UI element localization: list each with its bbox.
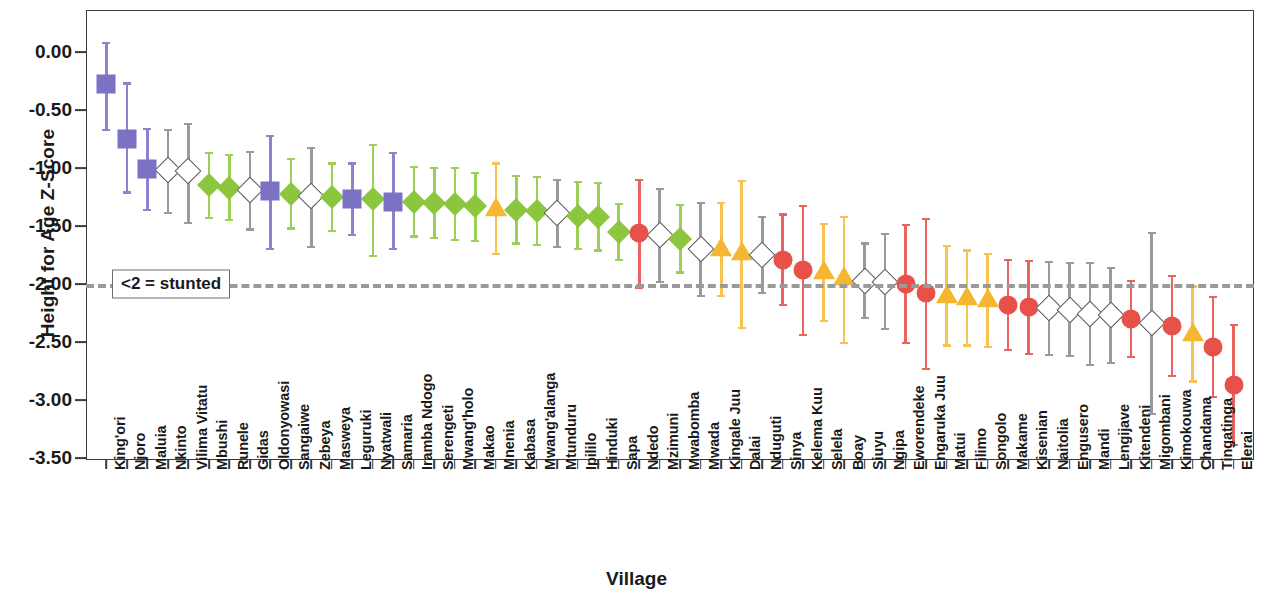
- error-bar-cap-lower: [287, 227, 295, 229]
- purple-square-marker[interactable]: [261, 182, 280, 201]
- x-axis-tick-mark: [925, 460, 927, 469]
- x-axis-tick-mark: [106, 460, 108, 469]
- amber-triangle-marker[interactable]: [731, 241, 753, 260]
- error-bar-cap-upper: [984, 253, 992, 255]
- x-axis-tick-label: Engaruka Juu: [932, 375, 948, 470]
- error-bar-cap-lower: [246, 228, 254, 230]
- red-circle-marker[interactable]: [630, 223, 649, 242]
- error-bar-cap-upper: [553, 179, 561, 181]
- red-circle-marker[interactable]: [1224, 375, 1243, 394]
- red-circle-marker[interactable]: [1163, 316, 1182, 335]
- x-axis-tick-mark: [372, 460, 374, 469]
- x-axis-tick-mark: [1151, 460, 1153, 469]
- x-axis-tick-mark: [167, 460, 169, 469]
- green-diamond-marker[interactable]: [607, 220, 631, 244]
- error-bar-cap-upper: [1107, 267, 1115, 269]
- x-axis-tick-label: Eworendeke: [911, 386, 927, 470]
- open-diamond-marker[interactable]: [544, 200, 571, 227]
- error-bar-cap-upper: [451, 167, 459, 169]
- error-bar-cap-upper: [287, 158, 295, 160]
- error-bar-cap-lower: [328, 230, 336, 232]
- error-bar-cap-upper: [410, 166, 418, 168]
- error-bar-cap-lower: [922, 368, 930, 370]
- x-axis-tick-mark: [1212, 460, 1214, 469]
- data-series-layer: [0, 0, 1273, 601]
- x-axis-tick-mark: [208, 460, 210, 469]
- x-axis-tick-mark: [987, 460, 989, 469]
- error-bar-cap-lower: [820, 320, 828, 322]
- red-circle-marker[interactable]: [1204, 337, 1223, 356]
- error-bar-cap-upper: [717, 202, 725, 204]
- x-axis-tick-mark: [966, 460, 968, 469]
- x-axis-tick-mark: [1007, 460, 1009, 469]
- x-axis-tick-mark: [290, 460, 292, 469]
- open-diamond-marker[interactable]: [1097, 302, 1124, 329]
- stunted-threshold-label: <2 = stunted: [112, 270, 230, 299]
- amber-triangle-marker[interactable]: [710, 237, 732, 256]
- green-diamond-marker[interactable]: [463, 194, 487, 218]
- error-bar-cap-upper: [1025, 260, 1033, 262]
- error-bar-cap-upper: [471, 172, 479, 174]
- error-bar-cap-upper: [1127, 280, 1135, 282]
- purple-square-marker[interactable]: [117, 130, 136, 149]
- green-diamond-marker[interactable]: [197, 173, 221, 197]
- open-diamond-marker[interactable]: [1138, 310, 1165, 337]
- amber-triangle-marker[interactable]: [956, 286, 978, 305]
- error-bar-cap-lower: [1168, 375, 1176, 377]
- x-axis-tick-mark: [823, 460, 825, 469]
- green-diamond-marker[interactable]: [320, 185, 344, 209]
- open-diamond-marker[interactable]: [1056, 296, 1083, 323]
- open-diamond-marker[interactable]: [175, 158, 202, 185]
- height-for-age-chart: Height for Age Z-Score 0.00-0.50-1.00-1.…: [0, 0, 1273, 601]
- amber-triangle-marker[interactable]: [833, 266, 855, 285]
- x-axis-tick-mark: [1192, 460, 1194, 469]
- red-circle-marker[interactable]: [1122, 309, 1141, 328]
- open-diamond-marker[interactable]: [236, 177, 263, 204]
- open-diamond-marker[interactable]: [646, 222, 673, 249]
- error-bar-cap-lower: [1066, 355, 1074, 357]
- x-axis-tick-label: Kingale Juu: [727, 389, 743, 470]
- x-axis-tick-mark: [536, 460, 538, 469]
- open-diamond-marker[interactable]: [872, 268, 899, 295]
- error-bar-cap-lower: [1004, 349, 1012, 351]
- error-bar-cap-upper: [328, 162, 336, 164]
- error-bar-cap-lower: [1127, 356, 1135, 358]
- error-bar-cap-upper: [656, 188, 664, 190]
- x-axis-tick-mark: [597, 460, 599, 469]
- x-axis-tick-mark: [802, 460, 804, 469]
- red-circle-marker[interactable]: [773, 250, 792, 269]
- error-bar-cap-lower: [184, 222, 192, 224]
- error-bar-cap-lower: [143, 209, 151, 211]
- amber-triangle-marker[interactable]: [485, 197, 507, 216]
- error-bar-cap-lower: [553, 246, 561, 248]
- error-bar-cap-lower: [799, 334, 807, 336]
- x-axis-tick-mark: [454, 460, 456, 469]
- error-bar-cap-upper: [348, 162, 356, 164]
- x-axis-tick-mark: [249, 460, 251, 469]
- green-diamond-marker[interactable]: [586, 205, 610, 229]
- amber-triangle-marker[interactable]: [977, 288, 999, 307]
- error-bar-cap-upper: [779, 213, 787, 215]
- purple-square-marker[interactable]: [343, 190, 362, 209]
- purple-square-marker[interactable]: [97, 75, 116, 94]
- purple-square-marker[interactable]: [384, 192, 403, 211]
- x-axis-tick-mark: [761, 460, 763, 469]
- x-axis-tick-mark: [516, 460, 518, 469]
- red-circle-marker[interactable]: [999, 295, 1018, 314]
- amber-triangle-marker[interactable]: [1182, 322, 1204, 341]
- error-bar-cap-upper: [123, 82, 131, 84]
- open-diamond-marker[interactable]: [749, 242, 776, 269]
- error-bar-cap-upper: [389, 152, 397, 154]
- amber-triangle-marker[interactable]: [813, 261, 835, 280]
- error-bar-cap-upper: [184, 123, 192, 125]
- x-axis-tick-mark: [782, 460, 784, 469]
- error-bar-cap-upper: [820, 223, 828, 225]
- error-bar-cap-upper: [1168, 275, 1176, 277]
- red-circle-marker[interactable]: [794, 261, 813, 280]
- x-axis-tick-mark: [1048, 460, 1050, 469]
- error-bar-cap-lower: [123, 191, 131, 193]
- x-axis-tick-label: Migombani: [1157, 394, 1173, 470]
- error-bar-cap-lower: [676, 271, 684, 273]
- green-diamond-marker[interactable]: [361, 187, 385, 211]
- error-bar-cap-lower: [574, 248, 582, 250]
